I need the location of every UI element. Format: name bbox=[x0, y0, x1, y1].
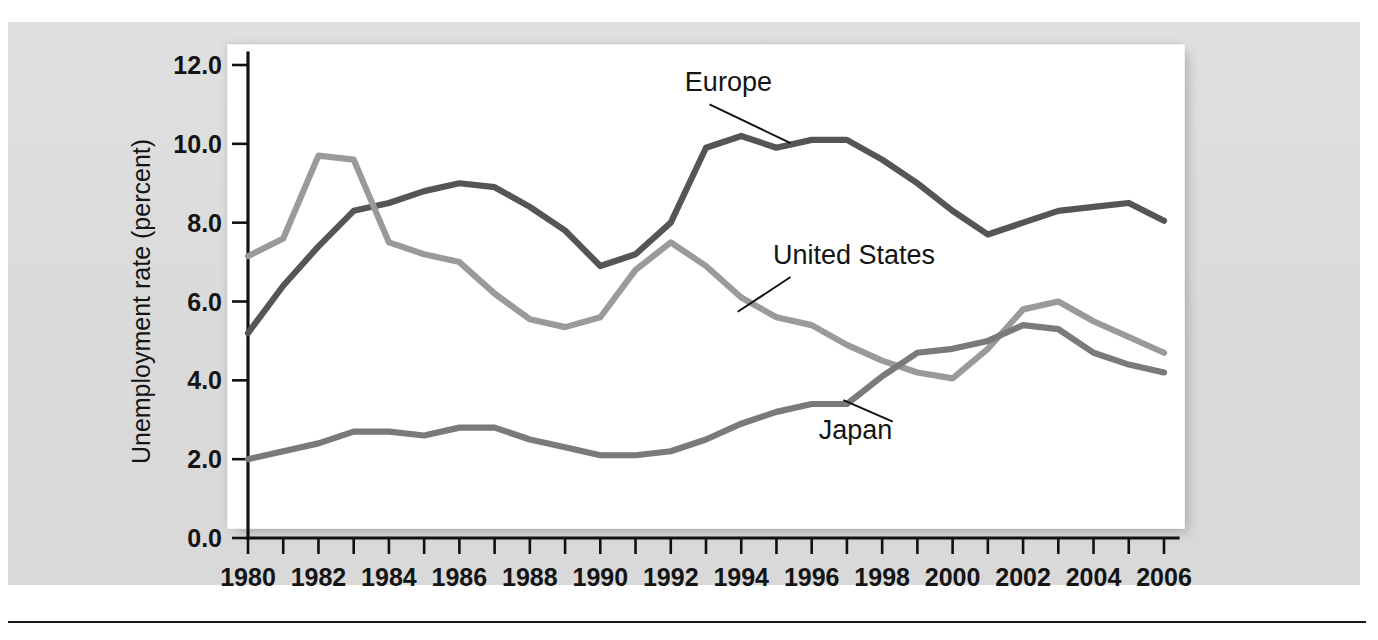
bottom-divider-rule bbox=[8, 621, 1366, 623]
plot-card bbox=[228, 45, 1184, 528]
figure-root: 0.02.04.06.08.010.012.019801982198419861… bbox=[0, 0, 1378, 640]
